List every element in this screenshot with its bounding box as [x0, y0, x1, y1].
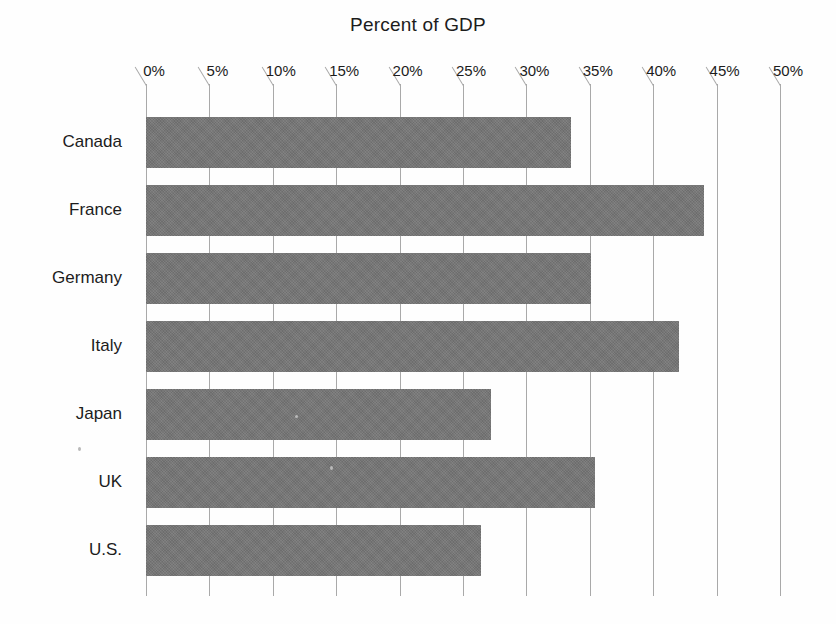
tick-stem — [209, 84, 210, 104]
bar-uk — [146, 457, 595, 508]
scan-artifact — [78, 447, 81, 451]
tick-stem — [526, 84, 527, 104]
tick-stem — [400, 84, 401, 104]
category-axis: CanadaFranceGermanyItalyJapanUKU.S. — [0, 104, 122, 596]
bar-row — [146, 185, 780, 236]
x-tick-label: 0% — [143, 62, 165, 79]
x-tick-label: 40% — [646, 62, 676, 79]
bar-row — [146, 457, 780, 508]
bar-france — [146, 185, 704, 236]
scan-artifact — [330, 466, 333, 470]
gridline — [780, 104, 781, 596]
tick-stem — [463, 84, 464, 104]
tick-stem — [653, 84, 654, 104]
y-category-label: UK — [0, 472, 122, 492]
x-tick-label: 25% — [456, 62, 486, 79]
bar-canada — [146, 117, 571, 168]
y-category-label: Japan — [0, 404, 122, 424]
bar-chart: Percent of GDP CanadaFranceGermanyItalyJ… — [0, 0, 836, 624]
x-tick-label: 5% — [207, 62, 229, 79]
bar-row — [146, 525, 780, 576]
plot-area — [146, 104, 780, 596]
tick-stem — [590, 84, 591, 104]
x-tick-label: 35% — [583, 62, 613, 79]
y-category-label: Canada — [0, 132, 122, 152]
y-category-label: Italy — [0, 336, 122, 356]
y-category-label: France — [0, 200, 122, 220]
bar-row — [146, 389, 780, 440]
chart-title: Percent of GDP — [0, 14, 836, 36]
scan-artifact — [295, 415, 298, 418]
tick-stem — [717, 84, 718, 104]
tick-stem — [780, 84, 781, 104]
x-tick-label: 10% — [266, 62, 296, 79]
bar-us — [146, 525, 481, 576]
bar-italy — [146, 321, 679, 372]
bar-row — [146, 321, 780, 372]
bar-germany — [146, 253, 591, 304]
x-tick-label: 20% — [393, 62, 423, 79]
bar-row — [146, 253, 780, 304]
y-category-label: U.S. — [0, 540, 122, 560]
x-tick-label: 50% — [773, 62, 803, 79]
y-category-label: Germany — [0, 268, 122, 288]
x-tick-label: 30% — [519, 62, 549, 79]
tick-stem — [146, 84, 147, 104]
bar-japan — [146, 389, 491, 440]
tick-stem — [273, 84, 274, 104]
tick-stem — [336, 84, 337, 104]
x-tick-label: 15% — [329, 62, 359, 79]
x-tick-label: 45% — [710, 62, 740, 79]
bar-row — [146, 117, 780, 168]
